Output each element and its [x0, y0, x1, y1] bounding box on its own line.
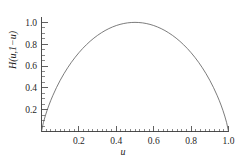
x-tick-label: 0.2 [73, 136, 85, 146]
x-axis-label: u [0, 146, 246, 157]
y-tick-label: 0.2 [25, 105, 37, 115]
tick-marks-layer [42, 22, 229, 131]
plot-canvas: 0.20.40.60.81.00.20.40.60.81.0 [0, 0, 246, 165]
axes-layer [42, 17, 230, 132]
y-tick-label: 0.6 [25, 61, 37, 71]
y-tick-label: 0.8 [25, 40, 37, 50]
y-axis-label: H(u,1−u) [7, 13, 23, 87]
x-tick-label: 0.8 [185, 136, 197, 146]
x-tick-label: 1.0 [223, 136, 235, 146]
tick-labels-layer: 0.20.40.60.81.00.20.40.60.81.0 [25, 18, 235, 146]
x-tick-label: 0.6 [148, 136, 160, 146]
data-curve-layer [42, 22, 229, 131]
y-tick-label: 1.0 [25, 18, 37, 28]
entropy-curve [42, 22, 229, 131]
x-tick-label: 0.4 [110, 136, 122, 146]
y-tick-label: 0.4 [25, 83, 37, 93]
entropy-plot-figure: 0.20.40.60.81.00.20.40.60.81.0 H(u,1−u) … [0, 0, 246, 165]
